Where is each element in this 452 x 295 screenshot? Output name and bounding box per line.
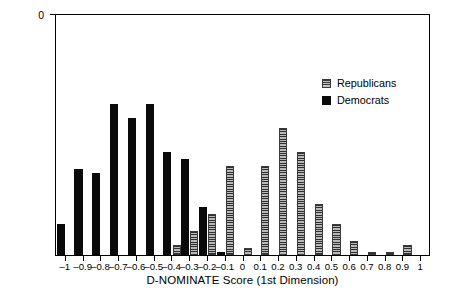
histogram-bar [332,224,340,255]
legend-item-rep: Republicans [322,76,396,90]
histogram-bar [208,214,216,255]
histogram-bar [368,252,376,255]
histogram-bar [173,245,181,255]
histogram-bar [128,118,136,255]
histogram-bar [74,169,82,255]
histogram-bar [279,128,287,255]
histogram-bar [57,224,65,255]
histogram-bar [244,248,252,255]
x-axis-title: D-NOMINATE Score (1st Dimension) [55,274,430,286]
histogram-bar [297,152,305,255]
histogram-bar [110,104,118,255]
plot-area: 010203040506070 –1–0.9–0.8–0.7–0.6–0.5–0… [55,14,430,256]
legend-item-dem: Democrats [322,93,396,107]
x-tick-label: 1 [403,262,437,272]
bars-layer [56,15,429,255]
chart-legend: RepublicansDemocrats [322,76,396,110]
histogram-bar [92,173,100,255]
histogram-bar [226,166,234,255]
legend-label: Republicans [337,77,396,89]
histogram-bar [315,204,323,255]
histogram-bar [163,152,171,255]
histogram-bar [403,245,411,255]
republicans-swatch-icon [322,79,331,88]
histogram-bar [199,207,207,255]
histogram-bar [146,104,154,255]
y-tick-label: 0 [14,10,44,20]
histogram-bar [181,159,189,255]
histogram-figure: Number of Representatives 01020304050607… [0,0,452,295]
histogram-bar [386,252,394,255]
histogram-bar [261,166,269,255]
histogram-bar [217,252,225,255]
histogram-bar [350,241,358,255]
legend-label: Democrats [337,94,389,106]
democrats-swatch-icon [322,96,331,105]
histogram-bar [190,231,198,255]
